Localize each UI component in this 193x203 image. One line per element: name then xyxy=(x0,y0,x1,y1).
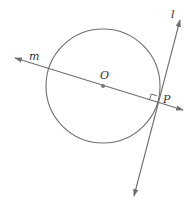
line-m xyxy=(15,58,183,110)
line-l xyxy=(134,20,180,196)
label-l: l xyxy=(171,8,175,21)
center-point-o xyxy=(101,84,105,88)
tangent-diagram: m O P l xyxy=(0,0,193,203)
right-angle-marker xyxy=(150,94,157,100)
label-m: m xyxy=(29,50,39,63)
label-o: O xyxy=(100,69,109,82)
label-p: P xyxy=(162,93,171,106)
